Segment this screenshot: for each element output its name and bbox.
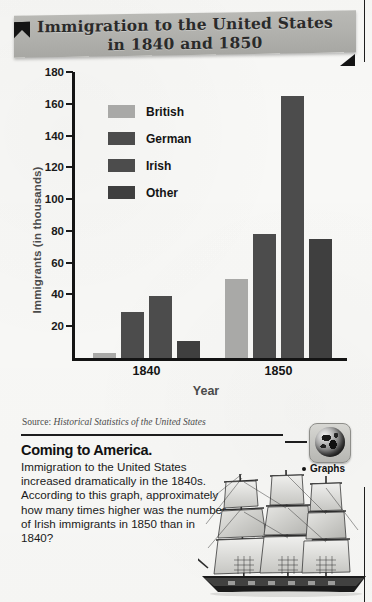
y-axis-tick-labels: 20406080100120140160180: [22, 64, 64, 361]
legend-swatch-icon: [108, 105, 135, 118]
globe-connector-rule: [285, 441, 307, 443]
bar-other-1840[interactable]: [177, 341, 200, 358]
bar-other-1850[interactable]: [309, 239, 332, 358]
caption-body: Immigration to the United States increas…: [21, 460, 226, 545]
y-axis-tick-label: 140: [22, 130, 64, 142]
divider-rule: [21, 434, 283, 436]
y-axis-tick-label: 60: [22, 257, 64, 269]
y-axis-tick-label: 20: [22, 320, 64, 332]
legend-item-german[interactable]: German: [108, 125, 268, 152]
bar-chart: Immigrants (in thousands) 20406080100120…: [0, 64, 372, 404]
bar-british-1840[interactable]: [93, 353, 116, 358]
legend-item-label: German: [146, 132, 191, 146]
globe-icon[interactable]: [309, 423, 351, 463]
y-axis-tick-label: 40: [22, 288, 64, 300]
legend-item-label: British: [146, 105, 184, 119]
title-banner: Immigration to the United States in 1840…: [0, 10, 372, 57]
legend-swatch-icon: [108, 159, 135, 172]
x-axis-line: [72, 358, 347, 361]
sailing-ship-illustration: [198, 468, 372, 602]
y-axis-tick-label: 160: [22, 98, 64, 110]
bar-irish-1840[interactable]: [149, 296, 172, 358]
source-title: Historical Statistics of the United Stat…: [53, 417, 205, 427]
y-axis-tick-label: 80: [22, 225, 64, 237]
ship-svg-icon: [198, 468, 372, 602]
globe-landmass-icon: [315, 427, 345, 457]
source-line: Source: Historical Statistics of the Uni…: [22, 417, 206, 427]
x-axis-title: Year: [0, 384, 372, 398]
legend-item-british[interactable]: British: [108, 98, 268, 125]
bar-british-1850[interactable]: [225, 279, 248, 358]
y-axis-tick-label: 120: [22, 161, 64, 173]
bar-irish-1850[interactable]: [281, 96, 304, 358]
y-axis-tick-label: 100: [22, 193, 64, 205]
caption-block: Coming to America. Immigration to the Un…: [21, 441, 226, 545]
x-axis-tick-label-1850: 1850: [249, 364, 309, 378]
legend-swatch-icon: [108, 132, 135, 145]
x-axis-tick-label-1840: 1840: [117, 364, 177, 378]
page-root: Immigration to the United States in 1840…: [0, 0, 372, 602]
bar-german-1850[interactable]: [253, 234, 276, 358]
legend-swatch-icon: [108, 186, 135, 199]
caption-heading: Coming to America.: [21, 441, 226, 459]
source-prefix: Source:: [22, 417, 53, 427]
page-title-line-2: in 1840 and 1850: [108, 33, 263, 54]
chart-legend: BritishGermanIrishOther: [108, 98, 268, 206]
legend-item-other[interactable]: Other: [108, 179, 268, 206]
y-axis-tick-label: 180: [22, 66, 64, 78]
legend-item-irish[interactable]: Irish: [108, 152, 268, 179]
legend-item-label: Irish: [146, 159, 171, 173]
legend-item-label: Other: [146, 186, 178, 200]
bar-german-1840[interactable]: [121, 312, 144, 358]
globe-sphere-icon: [315, 427, 345, 457]
page-title-line-1: Immigration to the United States: [37, 13, 333, 37]
